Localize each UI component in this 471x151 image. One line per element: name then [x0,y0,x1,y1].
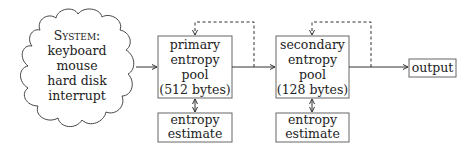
output-label: output [409,60,456,75]
secondary-pool-line: entropy [276,52,349,67]
source-label: System: keyboard mouse hard disk interru… [37,28,117,103]
secondary-estimate-label: entropy estimate [276,113,349,141]
secondary-pool-line: secondary [276,37,349,52]
source-line-hard-disk: hard disk [37,73,117,88]
primary-pool-label: primary entropy pool (512 bytes) [158,37,232,97]
secondary-pool-line: pool [276,67,349,82]
secondary-pool-size: (128 bytes) [276,82,349,97]
secondary-estimate-line: entropy [276,113,349,127]
secondary-pool-label: secondary entropy pool (128 bytes) [276,37,349,97]
primary-estimate-line: entropy [158,113,232,127]
primary-pool-line: primary [158,37,232,52]
primary-estimate-label: entropy estimate [158,113,232,141]
primary-pool-line: entropy [158,52,232,67]
primary-pool-line: pool [158,67,232,82]
source-line-mouse: mouse [37,58,117,73]
source-title: System: [37,28,117,43]
primary-estimate-line: estimate [158,127,232,141]
source-line-keyboard: keyboard [37,43,117,58]
source-line-interrupt: interrupt [37,88,117,103]
secondary-estimate-line: estimate [276,127,349,141]
primary-pool-size: (512 bytes) [158,82,232,97]
